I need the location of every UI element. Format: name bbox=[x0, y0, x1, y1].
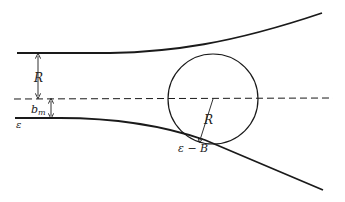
lower-boundary-curve bbox=[15, 118, 323, 190]
center-axis-dashed bbox=[14, 98, 333, 99]
tangent-point-label: ε − B bbox=[178, 142, 208, 155]
upper-boundary-curve bbox=[17, 13, 322, 53]
epsilon-label: ε bbox=[16, 119, 21, 130]
lower-gap-label: bm bbox=[31, 103, 46, 117]
diagram-canvas: R bm ε R ε − B bbox=[0, 0, 345, 202]
upper-gap-label: R bbox=[33, 71, 43, 85]
circle-radius-label: R bbox=[203, 113, 213, 127]
